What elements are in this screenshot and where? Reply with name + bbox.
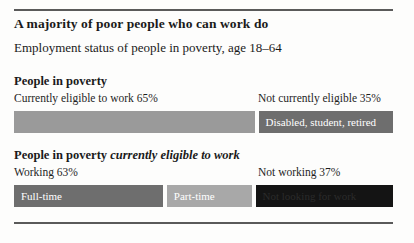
bar-segment-eligible bbox=[14, 111, 255, 133]
bar-segment-label: Not looking for work bbox=[256, 191, 357, 202]
bottom-rule bbox=[14, 222, 393, 224]
section-heading: People in poverty currently eligible to … bbox=[14, 148, 240, 163]
bar-segment-not-working: Not looking for work bbox=[256, 185, 393, 207]
section-heading-emphasis: currently eligible to work bbox=[110, 148, 240, 162]
bar-label-left: Currently eligible to work 65% bbox=[14, 92, 158, 104]
stacked-bar: Disabled, student, retired bbox=[14, 111, 393, 133]
bar-label-right: Not working 37% bbox=[258, 166, 340, 178]
bar-segment-label: Part-time bbox=[167, 191, 215, 202]
page-subtitle: Employment status of people in poverty, … bbox=[14, 40, 282, 56]
infographic-figure: A majority of poor people who can work d… bbox=[0, 0, 414, 243]
page-title: A majority of poor people who can work d… bbox=[14, 16, 268, 32]
bar-segment-part-time: Part-time bbox=[167, 185, 252, 207]
top-rule bbox=[14, 9, 393, 11]
bar-segment-not-eligible: Disabled, student, retired bbox=[259, 111, 393, 133]
bar-segment-full-time: Full-time bbox=[14, 185, 163, 207]
bar-segment-label: Full-time bbox=[14, 191, 62, 202]
bar-segment-label: Disabled, student, retired bbox=[259, 117, 377, 128]
section-label-row: Working 63% Not working 37% bbox=[14, 166, 393, 182]
bar-label-right: Not currently eligible 35% bbox=[258, 92, 381, 104]
section-heading-text: People in poverty bbox=[14, 74, 107, 88]
section-label-row: Currently eligible to work 65% Not curre… bbox=[14, 92, 393, 108]
stacked-bar: Full-time Part-time Not looking for work bbox=[14, 185, 393, 207]
section-heading-text: People in poverty bbox=[14, 148, 110, 162]
bar-label-left: Working 63% bbox=[14, 166, 78, 178]
section-heading: People in poverty bbox=[14, 74, 107, 89]
